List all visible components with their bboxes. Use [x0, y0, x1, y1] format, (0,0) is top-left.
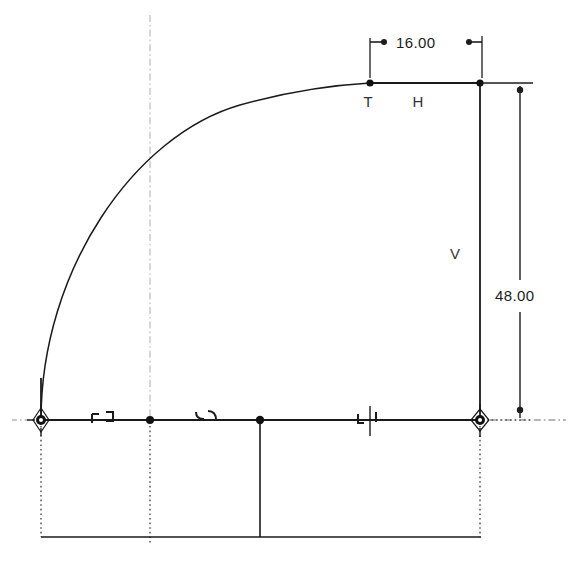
sketch-points-group	[146, 79, 484, 424]
constraint-labels-group: T H V	[363, 93, 460, 262]
horizontal-dimension[interactable]: 16.00	[370, 34, 482, 78]
coincident-pair-icon	[92, 412, 113, 423]
coincident-pair-left[interactable]	[92, 412, 113, 423]
origin-fix-constraint[interactable]	[27, 404, 49, 436]
dim-arrow-right-icon	[466, 39, 472, 45]
vertical-constraint-label[interactable]: V	[450, 245, 460, 262]
coincident-pair-mid[interactable]	[196, 411, 216, 420]
fix-anchor-icon	[27, 404, 49, 436]
arc-top-point[interactable]	[366, 79, 373, 86]
tangent-constraint-label[interactable]: T	[363, 93, 372, 110]
midline-point[interactable]	[146, 416, 154, 424]
vertical-dimension[interactable]: 48.00	[481, 83, 535, 420]
interior-point[interactable]	[256, 416, 264, 424]
dim-arrow-bottom-icon	[517, 407, 523, 413]
horizontal-dimension-value[interactable]: 16.00	[396, 34, 436, 51]
dim-arrow-left-icon	[381, 39, 387, 45]
horizontal-constraint-label[interactable]: H	[413, 93, 424, 110]
profile-arc[interactable]	[41, 83, 370, 420]
cad-sketch-canvas: 16.00 48.00 T H V	[0, 0, 576, 564]
construction-geometry-group	[12, 15, 566, 543]
sketch-geometry-group	[41, 83, 481, 537]
coincident-pair-icon	[196, 411, 216, 420]
sketch-viewport: 16.00 48.00 T H V	[0, 0, 576, 564]
vertical-dimension-value[interactable]: 48.00	[495, 287, 535, 304]
dim-arrow-top-icon	[517, 87, 523, 93]
